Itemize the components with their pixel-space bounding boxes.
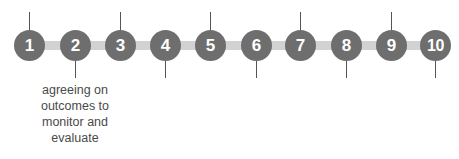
step-7-tick <box>300 12 301 30</box>
step-1-tick <box>29 12 30 30</box>
step-circle-7: 7 <box>285 30 316 61</box>
step-8-tick <box>346 61 347 78</box>
step-2-tick <box>75 61 76 78</box>
step-2-caption: agreeing on outcomes to monitor and eval… <box>25 82 125 146</box>
step-circle-10: 10 <box>420 30 451 61</box>
step-circle-4: 4 <box>150 30 181 61</box>
step-circle-6: 6 <box>241 30 272 61</box>
step-3-tick <box>120 12 121 30</box>
step-10-tick <box>435 61 436 78</box>
step-4-tick <box>165 61 166 78</box>
step-circle-5: 5 <box>195 30 226 61</box>
step-circle-9: 9 <box>376 30 407 61</box>
step-5-tick <box>210 12 211 30</box>
step-circle-8: 8 <box>331 30 362 61</box>
step-circle-1: 1 <box>14 30 45 61</box>
step-9-tick <box>391 12 392 30</box>
step-6-tick <box>256 61 257 78</box>
step-circle-3: 3 <box>105 30 136 61</box>
step-circle-2: 2 <box>60 30 91 61</box>
